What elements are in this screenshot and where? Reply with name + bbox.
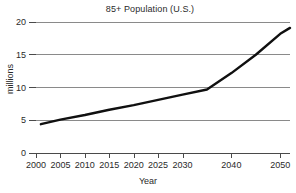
x-tick-marks bbox=[37, 153, 281, 158]
y-gridlines bbox=[36, 22, 290, 120]
data-line-series bbox=[41, 28, 290, 124]
y-tick-marks bbox=[29, 22, 36, 153]
x-tick-label-2030: 2030 bbox=[166, 160, 200, 170]
x-tick-label-2040: 2040 bbox=[214, 160, 248, 170]
y-tick-label-5: 5 bbox=[0, 115, 26, 125]
series-line-0 bbox=[41, 28, 290, 124]
y-tick-label-15: 15 bbox=[0, 50, 26, 60]
y-tick-label-20: 20 bbox=[0, 17, 26, 27]
y-tick-label-10: 10 bbox=[0, 83, 26, 93]
x-axis-line bbox=[36, 153, 290, 157]
x-tick-label-2050: 2050 bbox=[263, 160, 296, 170]
y-tick-label-0: 0 bbox=[0, 148, 26, 158]
chart-figure: 85+ Population (U.S.) millions Year 0510… bbox=[0, 0, 296, 193]
